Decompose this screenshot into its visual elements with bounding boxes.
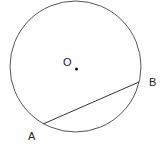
circle-diagram: O A B: [0, 0, 162, 147]
label-o: O: [63, 56, 72, 68]
circle: [10, 1, 141, 132]
label-a: A: [28, 130, 36, 142]
chord-ab: [43, 82, 139, 124]
center-point-dot: [75, 68, 78, 71]
label-b: B: [149, 76, 156, 88]
